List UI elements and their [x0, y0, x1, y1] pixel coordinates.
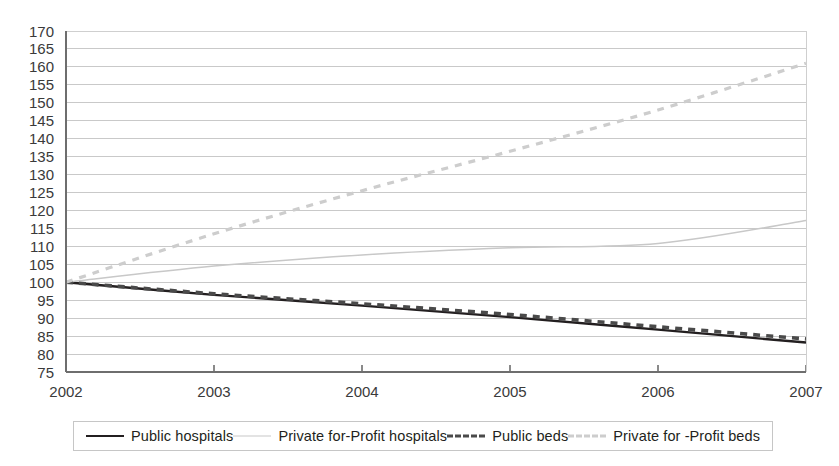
- y-axis-tick-label: 110: [30, 238, 54, 255]
- series-line: [66, 221, 806, 283]
- legend-item-public-beds: Public beds: [447, 428, 568, 444]
- y-axis-tick-label: 155: [29, 76, 54, 93]
- legend-swatch-private-for-profit-hospitals: [233, 430, 271, 442]
- legend-item-private-for-profit-beds: Private for -Profit beds: [568, 428, 760, 444]
- x-axis-tick-labels: 200220032004200520062007: [49, 383, 822, 400]
- x-axis-tick-label: 2006: [641, 383, 674, 400]
- x-axis-tick-label: 2004: [345, 383, 378, 400]
- axes: [66, 31, 806, 372]
- y-axis-tick-labels: 1701651601551501451401351301251201151101…: [29, 23, 54, 381]
- y-axis-tick-label: 145: [29, 112, 54, 129]
- y-axis-tick-label: 125: [29, 184, 54, 201]
- series-line: [66, 63, 806, 282]
- legend-label-private-for-profit-beds: Private for -Profit beds: [613, 428, 760, 444]
- y-axis-tick-label: 165: [29, 40, 54, 57]
- line-chart: 1701651601551501451401351301251201151101…: [0, 0, 839, 466]
- y-axis-tick-label: 105: [29, 256, 54, 273]
- y-axis-tick-label: 80: [37, 346, 54, 363]
- y-axis-tick-label: 85: [37, 328, 54, 345]
- x-axis-tick-label: 2005: [493, 383, 526, 400]
- legend-label-public-hospitals: Public hospitals: [131, 428, 233, 444]
- x-axis-tick-label: 2007: [789, 383, 822, 400]
- plot-area: 1701651601551501451401351301251201151101…: [0, 0, 839, 410]
- gridlines: [66, 31, 806, 354]
- y-axis-tick-label: 115: [30, 220, 54, 237]
- x-axis-tick-label: 2002: [49, 383, 82, 400]
- legend-swatch-public-beds: [447, 430, 485, 442]
- series-line: [66, 282, 806, 342]
- legend-item-private-for-profit-hospitals: Private for-Profit hospitals: [233, 428, 447, 444]
- y-axis-tick-label: 160: [29, 58, 54, 75]
- y-axis-tick-label: 100: [29, 274, 54, 291]
- y-axis-tick-label: 95: [37, 292, 54, 309]
- legend-item-public-hospitals: Public hospitals: [86, 428, 233, 444]
- y-axis-tick-label: 120: [29, 202, 54, 219]
- y-axis-tick-label: 170: [29, 23, 54, 40]
- y-axis-tick-label: 90: [37, 310, 54, 327]
- y-axis-tick-label: 150: [29, 94, 54, 111]
- legend-label-public-beds: Public beds: [492, 428, 568, 444]
- y-axis-tick-label: 130: [29, 166, 54, 183]
- legend-swatch-public-hospitals: [86, 430, 124, 442]
- legend-swatch-private-for-profit-beds: [568, 430, 606, 442]
- chart-legend: Public hospitals Private for-Profit hosp…: [73, 421, 773, 451]
- y-axis-tick-label: 135: [29, 148, 54, 165]
- y-axis-tick-label: 140: [29, 130, 54, 147]
- legend-label-private-for-profit-hospitals: Private for-Profit hospitals: [278, 428, 447, 444]
- x-axis-tick-label: 2003: [197, 383, 230, 400]
- y-axis-tick-label: 75: [37, 364, 54, 381]
